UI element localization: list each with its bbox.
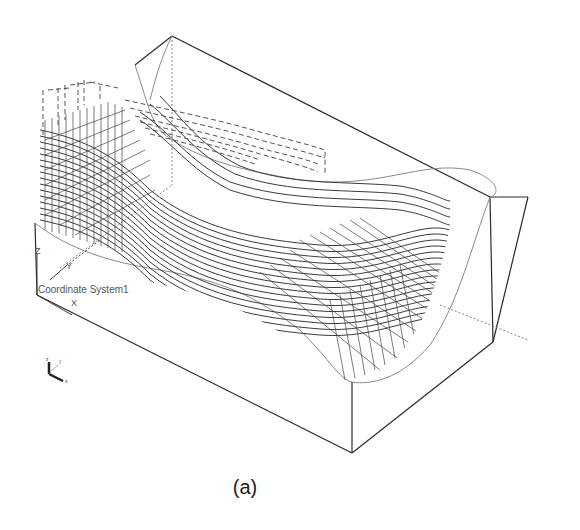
surface-boundary xyxy=(35,36,496,383)
cad-toolpath-figure: Z Y X Coordinate System1 z y x xyxy=(0,0,580,530)
cs-z-label: Z xyxy=(35,246,41,256)
cs-x-axis xyxy=(37,295,72,315)
cs-x-label: X xyxy=(71,298,77,308)
triad-x-label: x xyxy=(65,378,68,384)
triad-y-label: y xyxy=(59,358,62,364)
triad-z-label: z xyxy=(46,356,49,362)
cs-y-label: Y xyxy=(66,261,72,271)
view-triad-icon: z y x xyxy=(46,356,68,384)
rapid-moves xyxy=(43,80,325,175)
cs-y-axis xyxy=(50,266,66,280)
figure-caption: (a) xyxy=(233,476,257,499)
toolpath xyxy=(40,96,450,380)
coordinate-system-label: Coordinate System1 xyxy=(38,284,129,295)
figure-caption-container: (a) xyxy=(0,476,580,499)
coordinate-system-marker: Z Y X Coordinate System1 xyxy=(35,240,129,315)
hidden-edges xyxy=(60,36,528,340)
stock-block xyxy=(35,36,528,453)
